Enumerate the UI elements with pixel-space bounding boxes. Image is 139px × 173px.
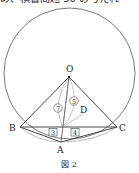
circled-label-5: 5: [72, 98, 76, 106]
label-O: O: [66, 64, 73, 74]
label-A: A: [56, 145, 64, 155]
geometry-figure: O B C A D 7 5 3 4 図 2: [0, 0, 139, 173]
segment-AC: [61, 127, 117, 142]
circled-label-7: 7: [56, 105, 60, 113]
label-B: B: [9, 123, 16, 133]
aux-line-1: [63, 77, 69, 127]
boxed-label-4: 4: [73, 129, 77, 137]
aux-line-D: [63, 114, 83, 127]
label-C: C: [119, 123, 126, 133]
segment-OB: [20, 77, 69, 127]
boxed-label-3: 3: [51, 129, 55, 137]
point-O: [68, 76, 70, 78]
label-D: D: [80, 105, 87, 115]
figure-caption: 図 2: [61, 160, 77, 169]
